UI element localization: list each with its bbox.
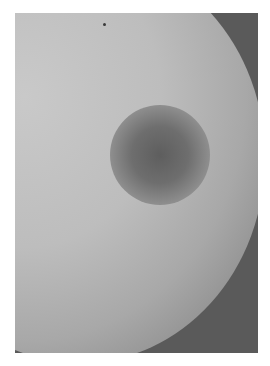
dark-lesion-region — [110, 105, 210, 205]
photograph — [15, 13, 258, 353]
speck — [103, 23, 106, 26]
